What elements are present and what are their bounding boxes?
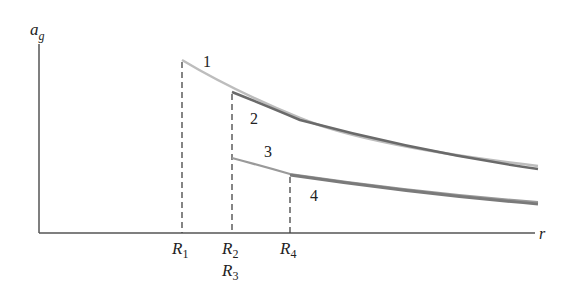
curve-4-label: 4: [310, 187, 318, 204]
curve-3: [232, 158, 538, 202]
tick-r2: R2: [221, 239, 238, 261]
gravity-acceleration-diagram: ag r 1 2 3 4 R1 R2 R3 R4: [0, 0, 578, 297]
curve-1: [182, 60, 538, 166]
tick-r1: R1: [171, 239, 188, 261]
y-axis-label: ag: [30, 20, 45, 43]
curve-3-label: 3: [264, 143, 272, 160]
curve-1-label: 1: [203, 53, 211, 70]
x-axis-label: r: [539, 225, 546, 242]
tick-r3: R3: [221, 261, 238, 283]
curve-2-label: 2: [250, 110, 258, 127]
curve-2: [232, 92, 538, 169]
tick-r4: R4: [279, 239, 296, 261]
